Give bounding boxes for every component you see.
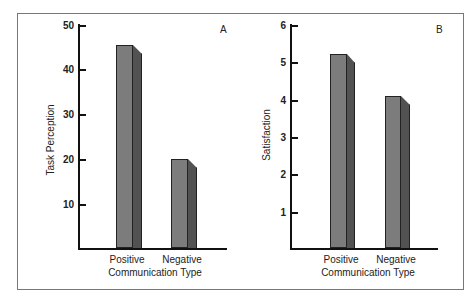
bar-a-negative [171,159,197,248]
y-tick-b [291,212,298,214]
y-tick-label-b: 3 [266,132,286,143]
panel-label-b: B [436,24,443,35]
y-tick-label-b: 1 [266,207,286,218]
bar-b-negative [385,96,410,248]
y-tick-a [79,25,86,27]
y-tick-b [291,100,298,102]
x-category-label-a: Negative [162,254,201,265]
y-tick-b [291,25,298,27]
y-tick-label-b: 6 [266,20,286,31]
x-category-label-a: Positive [109,254,144,265]
y-axis-a [78,24,80,250]
y-tick-label-b: 2 [266,169,286,180]
x-category-label-b: Negative [376,254,415,265]
x-axis-title-b: Communication Type [321,267,415,278]
y-tick-a [79,114,86,116]
y-tick-label-b: 4 [266,95,286,106]
x-axis-title-a: Communication Type [108,267,202,278]
x-axis-b [290,248,438,250]
y-tick-b [291,137,298,139]
bar-b-positive [330,54,355,248]
x-axis-a [78,248,227,250]
y-tick-a [79,204,86,206]
y-tick-label-a: 30 [54,109,74,120]
x-category-label-b: Positive [323,254,358,265]
bar-a-positive [116,45,142,248]
y-tick-a [79,159,86,161]
y-tick-b [291,62,298,64]
y-tick-label-a: 50 [54,20,74,31]
y-tick-b [291,174,298,176]
y-tick-label-a: 40 [54,64,74,75]
y-tick-label-a: 10 [54,199,74,210]
panel-label-a: A [220,24,227,35]
y-tick-label-b: 5 [266,57,286,68]
y-tick-label-a: 20 [54,154,74,165]
y-tick-a [79,69,86,71]
